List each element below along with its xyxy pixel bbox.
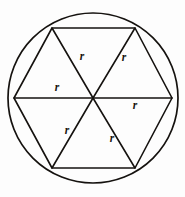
- radius-spoke-group: [14, 28, 172, 168]
- radius-to-top-right: [93, 28, 135, 98]
- radius-label-group: rrrrrr: [55, 50, 138, 144]
- radius-label-upper-right: r: [122, 51, 127, 63]
- radius-to-bottom-left: [52, 98, 93, 168]
- circle-hexagon-figure: Circle with inscribed regular hexagon A …: [0, 0, 185, 197]
- geometry-diagram: Circle with inscribed regular hexagon A …: [0, 0, 185, 197]
- radius-label-lower-right: r: [110, 132, 115, 144]
- radius-label-left: r: [55, 81, 60, 93]
- radius-label-upper-left: r: [80, 50, 85, 62]
- radius-label-lower-left: r: [65, 124, 70, 136]
- radius-label-right: r: [133, 99, 138, 111]
